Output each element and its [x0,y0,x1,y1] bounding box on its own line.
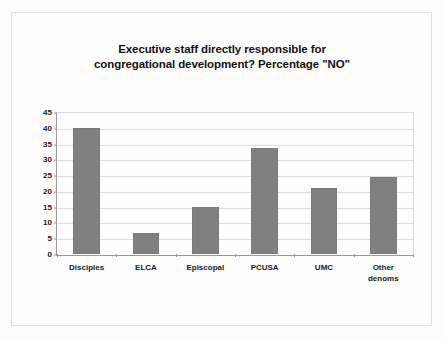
x-axis-category-label-line: denoms [354,273,413,284]
x-axis-category-label-line: Other [354,262,413,273]
bar-slot [235,112,294,254]
y-axis-tick-label: 40 [30,123,52,132]
bar [370,177,397,254]
bar [133,233,160,254]
chart-page: Executive staff directly responsible for… [0,0,444,341]
bar [192,207,219,254]
x-axis-category-label: Otherdenoms [354,262,413,284]
bar [73,128,100,254]
x-axis-tick-mark [57,254,58,257]
x-axis-category-label: UMC [294,262,353,284]
x-axis-category-label-line: UMC [294,262,353,273]
y-axis-tick-label: 25 [30,171,52,180]
y-axis-tick-label: 30 [30,155,52,164]
x-axis-category-label-line: Disciples [57,262,116,273]
x-axis-category-label: PCUSA [235,262,294,284]
y-axis-tick-label: 20 [30,186,52,195]
bar-slot [176,112,235,254]
y-axis-tick-label: 0 [30,250,52,259]
bar [251,148,278,254]
x-axis-category-label-line: Episcopal [176,262,235,273]
x-axis-category-label-line: PCUSA [235,262,294,273]
bar-slot [294,112,353,254]
bar [311,188,338,254]
bar-slot [116,112,175,254]
x-axis-tick-mark [176,254,177,257]
x-axis-category-label: ELCA [116,262,175,284]
bar-slot [57,112,116,254]
x-axis-tick-mark [116,254,117,257]
y-axis-tick-label: 5 [30,234,52,243]
y-axis-tick-label: 45 [30,108,52,117]
x-axis-tick-marks [57,254,413,258]
y-axis-tick-label: 15 [30,202,52,211]
x-axis-tick-mark [294,254,295,257]
y-axis-tick-label: 35 [30,139,52,148]
plot-wrapper: 454035302520151050 DisciplesELCAEpiscopa… [0,0,444,341]
x-axis-category-label-line: ELCA [116,262,175,273]
y-axis-tick-labels: 454035302520151050 [28,112,52,254]
bar-series [57,112,413,254]
x-axis-category-labels: DisciplesELCAEpiscopalPCUSAUMCOtherdenom… [57,262,413,284]
x-axis-tick-mark [354,254,355,257]
bar-slot [354,112,413,254]
x-axis-tick-mark [235,254,236,257]
x-axis-tick-mark [413,254,414,257]
x-axis-category-label: Disciples [57,262,116,284]
x-axis-category-label: Episcopal [176,262,235,284]
y-axis-tick-label: 10 [30,218,52,227]
